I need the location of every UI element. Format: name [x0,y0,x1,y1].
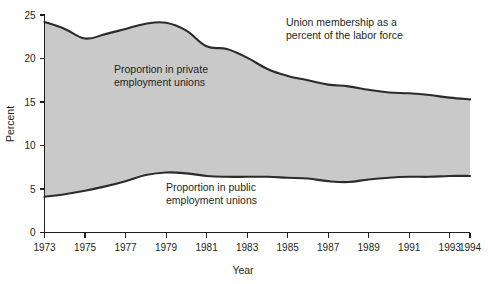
public-annotation: Proportion in publicemployment unions [166,181,257,206]
x-tick-label: 1979 [155,242,178,253]
total-annotation: Union membership as apercent of the labo… [286,16,403,41]
x-tick-label: 1987 [317,242,340,253]
y-tick-label: 5 [30,184,36,195]
union-membership-chart: 0510152025 Percent 197319751977197919811… [0,0,489,284]
private-annotation-line: employment unions [114,76,205,88]
private-annotation-line: Proportion in private [114,63,208,75]
chart-svg: 0510152025 Percent 197319751977197919811… [0,0,489,284]
y-tick-label: 0 [30,227,36,238]
y-axis-title: Percent [4,106,16,142]
x-axis-title: Year [232,264,254,276]
public-annotation-line: employment unions [166,194,257,206]
x-tick-label: 1983 [236,242,259,253]
x-tick-label: 1975 [74,242,97,253]
y-tick-label: 10 [24,140,36,151]
total-annotation-line: percent of the labor force [286,29,403,41]
x-tick-label: 1991 [398,242,421,253]
x-tick-label: 1977 [114,242,137,253]
x-tick-label: 1989 [358,242,381,253]
private-annotation: Proportion in privateemployment unions [114,63,208,88]
x-tick-label: 1994 [459,242,482,253]
x-tick-label: 1973 [33,242,56,253]
x-tick-label: 1981 [195,242,218,253]
public-annotation-line: Proportion in public [166,181,256,193]
y-tick-label: 15 [24,97,36,108]
y-tick-label: 20 [24,53,36,64]
x-tick-label: 1985 [277,242,300,253]
y-tick-label: 25 [24,10,36,21]
total-annotation-line: Union membership as a [286,16,397,28]
